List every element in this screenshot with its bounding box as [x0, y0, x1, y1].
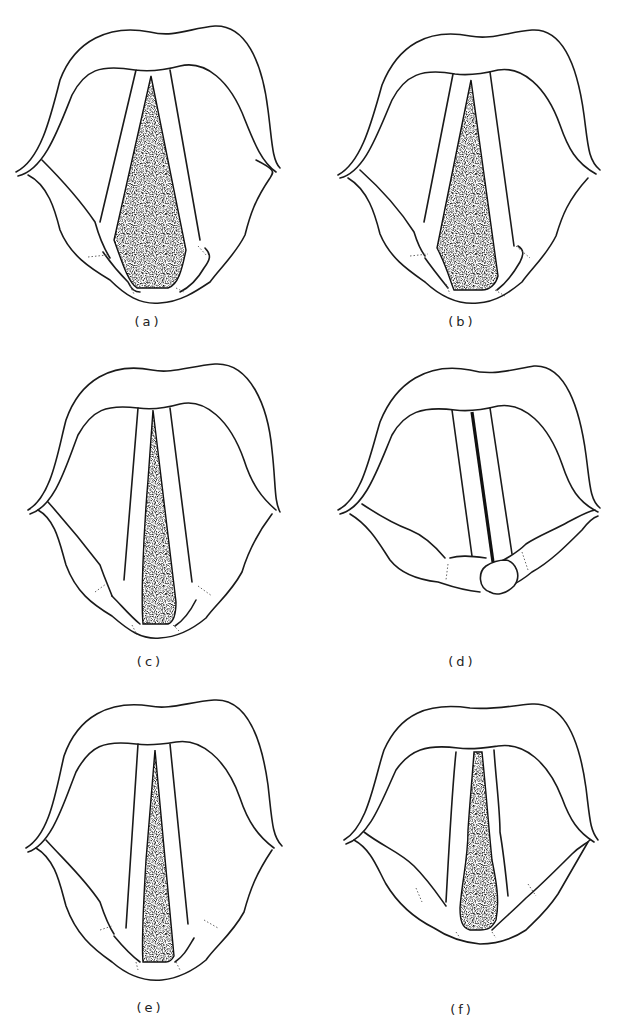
panel-d: (d) [310, 340, 618, 680]
panel-label-f: (f) [432, 1002, 492, 1017]
panel-f: (f) [310, 680, 618, 1035]
panel-c: (c) [0, 340, 310, 680]
panel-label-d: (d) [432, 654, 492, 669]
panel-label-a: (a) [118, 314, 178, 329]
vocal-fold-diagram-d [310, 340, 618, 680]
vocal-fold-diagram-a [0, 0, 310, 340]
vocal-fold-diagram-c [0, 340, 310, 680]
panel-label-e: (e) [120, 1000, 180, 1015]
panel-b: (b) [310, 0, 618, 340]
vocal-fold-diagram-f [310, 680, 618, 1035]
panel-e: (e) [0, 680, 310, 1035]
panel-label-c: (c) [120, 654, 180, 669]
panel-a: (a) [0, 0, 310, 340]
vocal-fold-diagram-b [310, 0, 618, 340]
panel-label-b: (b) [432, 314, 492, 329]
vocal-fold-diagram-e [0, 680, 310, 1035]
